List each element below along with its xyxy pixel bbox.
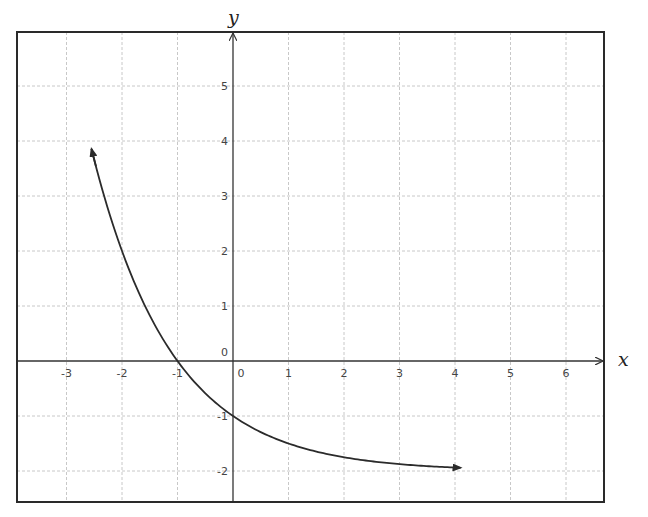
x-tick-label: 2 [341,367,348,380]
y-tick-label: 2 [221,245,228,258]
x-tick-label: 5 [507,367,514,380]
curve-start-arrow [91,149,95,166]
tick-labels: -3-2-10123456-2-1123450 [61,80,569,478]
y-axis-label: y [227,6,239,28]
x-tick-label: 1 [285,367,292,380]
x-tick-label: 6 [563,367,570,380]
y-tick-label: -2 [217,465,228,478]
grid-lines [17,32,604,502]
origin-label: 0 [221,346,228,359]
x-tick-label: -3 [61,367,72,380]
x-tick-label: -2 [117,367,128,380]
curve [91,149,460,468]
y-tick-label: 1 [221,300,228,313]
y-tick-label: 3 [221,190,228,203]
y-tick-label: 5 [221,80,228,93]
x-tick-label: -1 [172,367,183,380]
function-curve [91,149,460,468]
x-tick-label: 0 [238,367,245,380]
function-graph: -3-2-10123456-2-1123450 x y [0,0,648,517]
x-axis-label: x [618,348,629,370]
x-tick-label: 4 [452,367,459,380]
y-tick-label: 4 [221,135,228,148]
axes [17,33,603,502]
x-tick-label: 3 [396,367,403,380]
plot-frame [17,32,604,502]
